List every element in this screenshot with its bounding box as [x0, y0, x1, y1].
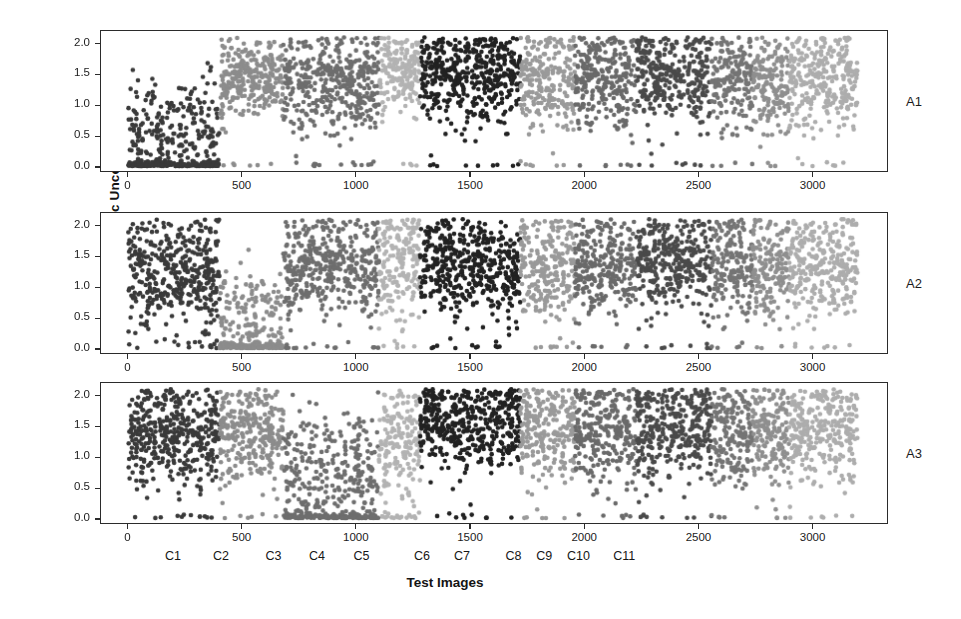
x-tick-mark	[469, 172, 470, 177]
x-tick-mark	[584, 524, 585, 529]
x-tick-label: 0	[97, 179, 157, 191]
y-tick-label: 0.0	[42, 341, 90, 353]
y-tick-mark	[95, 256, 100, 257]
x-tick-mark	[469, 524, 470, 529]
x-tick-mark	[355, 172, 356, 177]
x-tick-mark	[241, 354, 242, 359]
class-label-c5: C5	[334, 549, 390, 563]
x-tick-label: 2500	[668, 179, 728, 191]
y-tick-mark	[95, 225, 100, 226]
x-tick-label: 2000	[554, 531, 614, 543]
y-tick-mark	[95, 136, 100, 137]
x-tick-label: 1000	[326, 179, 386, 191]
x-tick-label: 500	[212, 361, 272, 373]
x-tick-mark	[127, 172, 128, 177]
y-tick-label: 1.0	[42, 449, 90, 461]
panel-a3	[100, 382, 888, 524]
y-tick-mark	[95, 166, 100, 167]
y-tick-label: 0.0	[42, 159, 90, 171]
x-tick-mark	[127, 354, 128, 359]
x-tick-mark	[355, 524, 356, 529]
y-tick-mark	[95, 518, 100, 519]
panel-a1	[100, 30, 888, 172]
x-tick-label: 2000	[554, 361, 614, 373]
x-tick-mark	[812, 354, 813, 359]
x-tick-label: 0	[97, 531, 157, 543]
x-tick-mark	[812, 172, 813, 177]
class-label-c7: C7	[434, 549, 490, 563]
class-label-c11: C11	[596, 549, 652, 563]
x-tick-mark	[584, 354, 585, 359]
y-tick-label: 1.5	[42, 248, 90, 260]
scatter-canvas-a3	[101, 383, 887, 523]
epistemic-uncertainty-figure: Epistemic Uncertainty A1 A2 A3 0.00.51.0…	[0, 0, 961, 619]
x-tick-mark	[812, 524, 813, 529]
x-tick-label: 3000	[783, 361, 843, 373]
x-tick-label: 1500	[440, 179, 500, 191]
panel-a2	[100, 212, 888, 354]
y-tick-label: 0.5	[42, 310, 90, 322]
class-label-c2: C2	[193, 549, 249, 563]
x-tick-mark	[698, 524, 699, 529]
scatter-canvas-a1	[101, 31, 887, 171]
x-tick-label: 1000	[326, 531, 386, 543]
y-tick-label: 1.5	[42, 66, 90, 78]
x-tick-label: 1500	[440, 361, 500, 373]
x-tick-mark	[127, 524, 128, 529]
y-tick-label: 2.0	[42, 218, 90, 230]
y-tick-label: 1.5	[42, 418, 90, 430]
y-tick-mark	[95, 457, 100, 458]
scatter-canvas-a2	[101, 213, 887, 353]
x-tick-mark	[469, 354, 470, 359]
x-tick-mark	[355, 354, 356, 359]
y-tick-label: 1.0	[42, 279, 90, 291]
x-tick-mark	[241, 172, 242, 177]
x-axis-label: Test Images	[0, 575, 890, 590]
y-tick-label: 0.0	[42, 511, 90, 523]
panel-tag-a1: A1	[906, 94, 922, 109]
x-tick-mark	[584, 172, 585, 177]
y-tick-mark	[95, 395, 100, 396]
y-tick-mark	[95, 348, 100, 349]
panel-tag-a3: A3	[906, 446, 922, 461]
x-tick-label: 1000	[326, 361, 386, 373]
x-tick-label: 2500	[668, 361, 728, 373]
x-tick-label: 2500	[668, 531, 728, 543]
x-tick-label: 3000	[783, 179, 843, 191]
y-tick-mark	[95, 74, 100, 75]
y-tick-mark	[95, 105, 100, 106]
y-tick-label: 0.5	[42, 480, 90, 492]
x-tick-mark	[241, 524, 242, 529]
y-tick-mark	[95, 488, 100, 489]
x-tick-label: 500	[212, 179, 272, 191]
x-tick-label: 3000	[783, 531, 843, 543]
x-tick-mark	[698, 354, 699, 359]
x-tick-mark	[698, 172, 699, 177]
y-tick-mark	[95, 43, 100, 44]
y-tick-label: 2.0	[42, 36, 90, 48]
y-tick-label: 1.0	[42, 97, 90, 109]
panel-tag-a2: A2	[906, 276, 922, 291]
x-tick-label: 1500	[440, 531, 500, 543]
y-tick-label: 2.0	[42, 388, 90, 400]
y-tick-mark	[95, 287, 100, 288]
x-tick-label: 0	[97, 361, 157, 373]
y-tick-mark	[95, 318, 100, 319]
x-tick-label: 2000	[554, 179, 614, 191]
y-tick-label: 0.5	[42, 128, 90, 140]
x-tick-label: 500	[212, 531, 272, 543]
y-tick-mark	[95, 426, 100, 427]
